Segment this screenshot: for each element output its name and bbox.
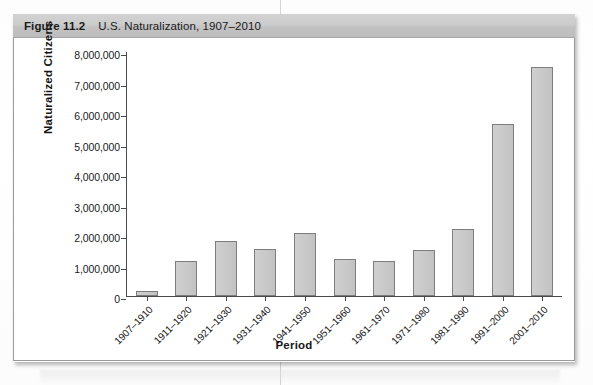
x-tick-mark [463,296,464,301]
figure-title: U.S. Naturalization, 1907–2010 [98,20,261,32]
bar-slot [364,52,404,296]
plot-area: Naturalized Citizens 01,000,0002,000,000… [14,38,574,360]
bar [452,229,474,296]
bar [175,261,197,296]
x-tick-mark [265,296,266,301]
y-axis-tick-labels: 01,000,0002,000,0003,000,0004,000,0005,0… [60,54,126,287]
y-tick-label: 5,000,000 [74,141,120,153]
x-tick-mark [226,296,227,301]
bar-slot [167,52,207,296]
bar-slot [206,52,246,296]
bar [294,233,316,296]
x-axis-tick-labels: 1907–19101911–19201921–19301931–19401941… [127,302,562,362]
bar-slot [443,52,483,296]
bar [531,67,553,296]
bar [334,259,356,296]
bar-series [127,52,562,296]
y-axis-title: Naturalized Citizens [42,21,54,134]
y-tick-label: 3,000,000 [74,202,120,214]
bar-slot [285,52,325,296]
bar [215,241,237,296]
x-tick-mark [305,296,306,301]
y-tick-label: 6,000,000 [74,110,120,122]
bar [413,250,435,296]
x-tick-mark [542,296,543,301]
x-tick-mark [384,296,385,301]
bar-slot [246,52,286,296]
y-tick-label: 7,000,000 [74,80,120,92]
y-tick-label: 1,000,000 [74,263,120,275]
bar-slot [483,52,523,296]
bar-slot [404,52,444,296]
scan-artifact [40,370,560,384]
x-tick-mark [424,296,425,301]
y-tick-label: 2,000,000 [74,232,120,244]
y-tick-label: 4,000,000 [74,171,120,183]
figure-number: Figure 11.2 [24,20,85,32]
x-tick-mark [147,296,148,301]
y-tick-label: 0 [114,293,120,305]
bar [373,261,395,296]
bar-slot [325,52,365,296]
x-label-slot: 2001–2010 [522,302,562,362]
chart-panel: Naturalized Citizens 01,000,0002,000,000… [13,38,575,361]
figure-container: Figure 11.2 U.S. Naturalization, 1907–20… [13,14,575,362]
bar [492,124,514,296]
x-tick-mark [503,296,504,301]
y-tick-mark [121,299,126,300]
bar-slot [127,52,167,296]
x-axis-title: Period [14,339,574,351]
x-tick-mark [345,296,346,301]
bar-slot [522,52,562,296]
figure-header-band: Figure 11.2 U.S. Naturalization, 1907–20… [13,14,575,38]
x-tick-mark [186,296,187,301]
bar [254,249,276,296]
y-tick-label: 8,000,000 [74,49,120,61]
